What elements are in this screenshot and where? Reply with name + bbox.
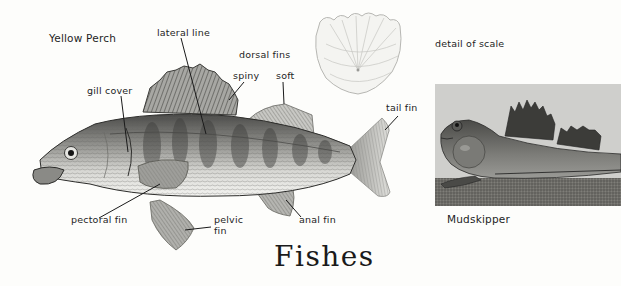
tail-fin <box>350 118 390 197</box>
label-anal-fin: anal fin <box>299 214 336 225</box>
label-dorsal-fins: dorsal fins <box>239 49 290 60</box>
label-lateral-line: lateral line <box>157 27 210 38</box>
scale-detail-illustration <box>316 13 401 94</box>
label-pelvic-fin-line1: pelvic <box>214 214 243 225</box>
label-soft: soft <box>276 70 294 81</box>
mudskipper-panel <box>435 84 621 206</box>
caption-mudskipper: Mudskipper <box>447 214 510 225</box>
page-title: Fishes <box>274 240 375 273</box>
label-pectoral-fin: pectoral fin <box>71 214 127 225</box>
label-spiny: spiny <box>233 70 259 81</box>
pelvic-fin <box>150 200 194 250</box>
caption-detail-of-scale: detail of scale <box>435 38 504 49</box>
spiny-dorsal-fin <box>143 64 238 115</box>
label-tail-fin: tail fin <box>386 102 417 113</box>
mudskipper-illustration <box>435 84 621 206</box>
label-gill-cover: gill cover <box>87 85 132 96</box>
caption-yellow-perch: Yellow Perch <box>49 33 116 44</box>
label-pelvic-fin-line2: fin <box>214 225 227 236</box>
pectoral-fin <box>138 160 188 189</box>
